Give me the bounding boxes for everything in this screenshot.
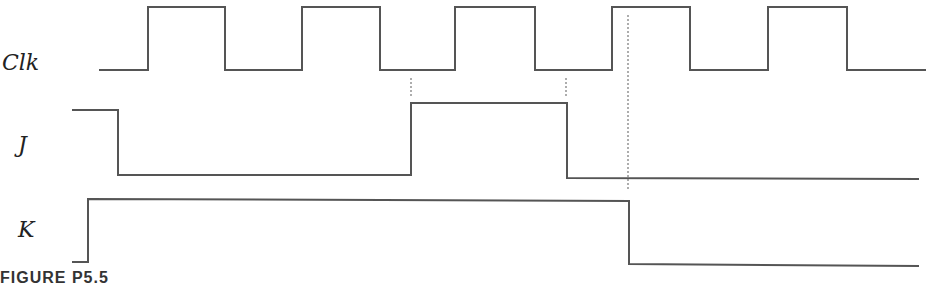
- signal-label-clk: Clk: [2, 52, 39, 74]
- waveform-clk: [99, 7, 926, 70]
- figure-caption: FIGURE P5.5: [0, 270, 109, 286]
- signal-label-j: J: [18, 134, 27, 156]
- waveform-j: [72, 103, 919, 179]
- waveform-k: [72, 199, 919, 266]
- signal-label-k: K: [18, 219, 34, 241]
